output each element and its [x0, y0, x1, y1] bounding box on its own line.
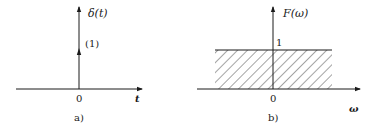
impulse-weight-label: (1) [85, 38, 99, 49]
impulse-arrow-icon [77, 48, 81, 55]
figure-b: F(ω) 1 0 ω b) [197, 7, 360, 123]
origin-label-b: 0 [270, 93, 276, 104]
diagram-canvas: δ(t) (1) 0 t a) F(ω) 1 0 ω b) [0, 0, 371, 133]
figure-a: δ(t) (1) 0 t a) [16, 7, 142, 123]
origin-label-a: 0 [76, 93, 82, 104]
omega-label: ω [349, 103, 359, 114]
F-omega-label: F(ω) [282, 7, 308, 20]
level-one-label: 1 [276, 37, 282, 48]
caption-b: b) [268, 112, 278, 123]
t-label: t [135, 93, 140, 104]
caption-a: a) [74, 112, 84, 123]
delta-label: δ(t) [88, 7, 108, 20]
